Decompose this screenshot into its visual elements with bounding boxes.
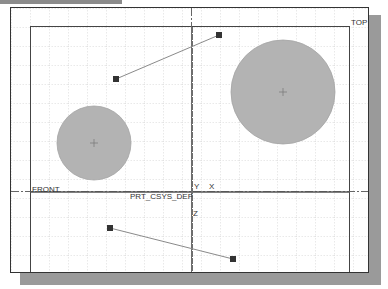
top-datum-label: TOP xyxy=(351,19,367,27)
lower-segment-start-point[interactable] xyxy=(107,225,113,231)
csys-axis-z: Z xyxy=(193,210,198,218)
upper-segment-start-point[interactable] xyxy=(113,76,119,82)
front-datum-label: FRONT xyxy=(32,186,60,194)
upper-segment-end-point[interactable] xyxy=(216,32,222,38)
lower-segment-end-point[interactable] xyxy=(230,256,236,262)
csys-axis-y: Y xyxy=(194,183,199,191)
sketch-canvas[interactable] xyxy=(0,0,388,289)
csys-label: PRT_CSYS_DEF xyxy=(130,193,193,201)
csys-axis-x: X xyxy=(209,183,214,191)
